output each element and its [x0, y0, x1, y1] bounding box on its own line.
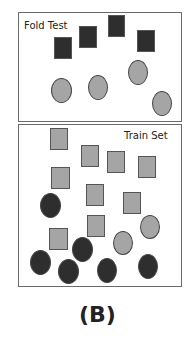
- dark-circle-icon: [40, 193, 61, 218]
- dark-circle-icon: [30, 250, 51, 275]
- dark-circle-icon: [138, 254, 158, 279]
- dark-square-icon: [54, 37, 72, 59]
- gray-square-icon: [49, 228, 68, 250]
- dark-square-icon: [79, 26, 97, 48]
- gray-square-icon: [138, 156, 156, 178]
- train-set-label: Train Set: [124, 130, 168, 141]
- gray-square-icon: [81, 145, 99, 167]
- gray-circle-icon: [113, 231, 133, 255]
- dark-square-icon: [137, 30, 155, 52]
- gray-square-icon: [50, 128, 68, 150]
- fold-test-label: Fold Test: [24, 20, 68, 31]
- gray-circle-icon: [128, 60, 148, 85]
- figure-caption: (B): [0, 302, 195, 327]
- dark-circle-icon: [97, 258, 117, 283]
- gray-square-icon: [86, 184, 104, 206]
- gray-square-icon: [87, 215, 105, 237]
- gray-square-icon: [123, 192, 141, 214]
- gray-circle-icon: [88, 75, 108, 100]
- gray-circle-icon: [140, 215, 160, 239]
- gray-circle-icon: [152, 91, 172, 116]
- dark-circle-icon: [72, 237, 93, 262]
- gray-square-icon: [107, 151, 125, 173]
- gray-circle-icon: [51, 78, 72, 103]
- dark-circle-icon: [58, 259, 79, 284]
- dark-square-icon: [108, 15, 125, 37]
- gray-square-icon: [51, 167, 70, 189]
